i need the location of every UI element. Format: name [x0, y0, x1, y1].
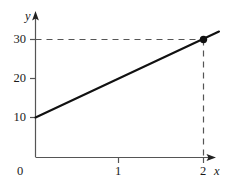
line-chart-figure: y x 30 20 10 0 1 2	[0, 0, 237, 184]
y-tick-label-10: 10	[6, 111, 26, 124]
plot-area	[0, 0, 237, 184]
x-tick-label-0: 0	[13, 165, 27, 178]
x-tick-label-1: 1	[111, 165, 125, 178]
y-axis-label: y	[25, 10, 31, 23]
x-axis-label: x	[214, 165, 220, 178]
data-point-marker	[200, 36, 207, 43]
y-tick-label-30: 30	[6, 33, 26, 46]
x-tick-label-2: 2	[196, 165, 210, 178]
data-line	[36, 32, 220, 118]
y-tick-label-20: 20	[6, 72, 26, 85]
